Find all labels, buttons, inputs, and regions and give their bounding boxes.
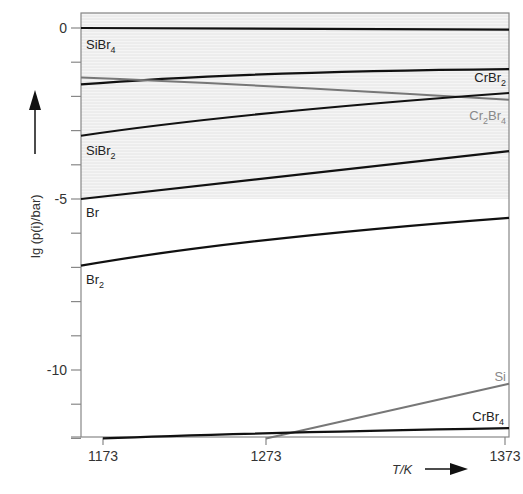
y-axis-label: lg (p(i)/bar) (28, 194, 43, 258)
series-label-crbr4: CrBr4 (472, 409, 504, 427)
x-tick-label: 1173 (88, 448, 118, 464)
y-tick-label: -10 (47, 362, 67, 378)
x-axis-arrow (425, 463, 468, 475)
x-axis: 117312731373 (71, 437, 521, 464)
series-label-br: Br (86, 205, 100, 220)
y-axis-arrow (29, 90, 41, 154)
chart: 0-5-10 117312731373 SiBr4CrBr2Cr2Br4SiBr… (0, 0, 523, 494)
series-line-br2 (81, 218, 509, 266)
x-tick-label: 1373 (489, 448, 520, 464)
x-axis-label: T/K (392, 462, 414, 477)
arrow-up-icon (29, 90, 41, 110)
x-tick-label: 1273 (250, 448, 281, 464)
y-tick-label: -5 (55, 191, 68, 207)
series-label-br2: Br2 (86, 272, 104, 290)
series-label-si: Si (494, 369, 506, 384)
y-tick-label: 0 (59, 20, 67, 36)
y-axis: 0-5-10 (47, 20, 81, 438)
y-axis-title: lg (p(i)/bar) (28, 194, 43, 258)
arrow-right-icon (450, 463, 468, 475)
